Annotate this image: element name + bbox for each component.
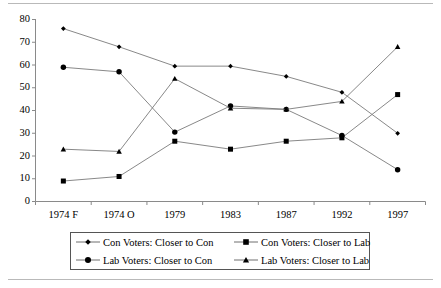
x-tick-label: 1979 bbox=[143, 209, 207, 220]
x-tick-label: 1997 bbox=[366, 209, 430, 220]
legend-row: Lab Voters: Closer to Con Lab Voters: Cl… bbox=[71, 251, 369, 269]
data-point-square bbox=[117, 174, 122, 179]
legend-row: Con Voters: Closer to Con Con Voters: Cl… bbox=[71, 233, 369, 251]
y-tick-label: 40 bbox=[4, 104, 30, 115]
legend-item-3: Lab Voters: Closer to Lab bbox=[233, 255, 369, 266]
data-point-square bbox=[395, 92, 400, 97]
data-point-diamond bbox=[284, 74, 289, 79]
chart-page: 01020304050607080 1974 F1974 O1979198319… bbox=[0, 0, 441, 288]
legend-marker-square-icon bbox=[233, 237, 259, 247]
data-point-square bbox=[284, 139, 289, 144]
legend-item-2: Lab Voters: Closer to Con bbox=[71, 255, 233, 266]
series-line bbox=[63, 29, 397, 134]
legend-marker-triangle-icon bbox=[233, 255, 259, 265]
data-point-diamond bbox=[172, 64, 177, 69]
x-tick-label: 1987 bbox=[254, 209, 318, 220]
data-point-circle bbox=[116, 69, 121, 74]
chart-legend: Con Voters: Closer to Con Con Voters: Cl… bbox=[70, 232, 370, 270]
data-point-circle bbox=[61, 65, 66, 70]
x-tick-label: 1983 bbox=[199, 209, 263, 220]
x-tick-label: 1974 O bbox=[87, 209, 151, 220]
data-point-triangle bbox=[395, 44, 401, 49]
legend-marker-circle-icon bbox=[75, 255, 101, 265]
y-tick-label: 20 bbox=[4, 150, 30, 161]
legend-item-1: Con Voters: Closer to Lab bbox=[233, 237, 369, 248]
data-point-circle bbox=[172, 129, 177, 134]
series-line bbox=[63, 67, 397, 169]
data-point-circle bbox=[85, 257, 91, 263]
y-tick-label: 50 bbox=[4, 81, 30, 92]
y-tick-label: 0 bbox=[4, 195, 30, 206]
data-point-square bbox=[172, 139, 177, 144]
y-tick-label: 60 bbox=[4, 59, 30, 70]
legend-label: Con Voters: Closer to Con bbox=[103, 237, 213, 248]
legend-label: Lab Voters: Closer to Lab bbox=[261, 255, 369, 266]
x-tick-label: 1992 bbox=[310, 209, 374, 220]
data-point-square bbox=[228, 147, 233, 152]
series-3 bbox=[61, 44, 401, 154]
x-tick-label: 1974 F bbox=[31, 209, 95, 220]
y-tick-label: 30 bbox=[4, 127, 30, 138]
data-point-square bbox=[61, 179, 66, 184]
series-0 bbox=[61, 26, 400, 135]
y-tick-label: 10 bbox=[4, 172, 30, 183]
series-line bbox=[63, 47, 397, 152]
data-point-square bbox=[243, 239, 249, 245]
data-point-diamond bbox=[85, 239, 91, 245]
legend-label: Lab Voters: Closer to Con bbox=[103, 255, 212, 266]
y-tick-label: 80 bbox=[4, 13, 30, 24]
data-point-circle bbox=[395, 167, 400, 172]
legend-item-0: Con Voters: Closer to Con bbox=[71, 237, 233, 248]
series-2 bbox=[61, 65, 401, 173]
legend-marker-diamond-icon bbox=[75, 237, 101, 247]
legend-label: Con Voters: Closer to Lab bbox=[261, 237, 370, 248]
data-point-circle bbox=[339, 133, 344, 138]
data-point-diamond bbox=[61, 26, 66, 31]
data-point-triangle bbox=[172, 76, 178, 81]
data-point-diamond bbox=[117, 44, 122, 49]
data-point-diamond bbox=[228, 64, 233, 69]
y-tick-label: 70 bbox=[4, 36, 30, 47]
